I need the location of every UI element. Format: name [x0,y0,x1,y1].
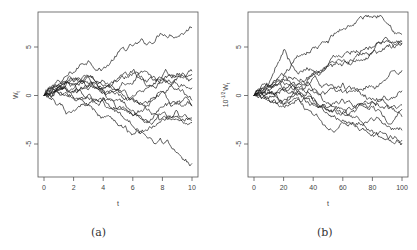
panel-a-paths [44,27,192,166]
x-tick-label: 100 [396,184,408,191]
series-line-path-10 [254,84,402,145]
x-tick-label: 6 [131,184,135,191]
x-tick-label: 20 [280,184,288,191]
figure: 0246810 -505 t Wt 020406080100 -505 t 10… [0,0,417,250]
x-tick-label: 80 [369,184,377,191]
x-tick-label: 40 [309,184,317,191]
panel-a-x-axis: 0246810 [42,177,196,191]
series-line-path-9 [44,95,192,166]
x-tick-label: 60 [339,184,347,191]
series-line-path-7 [254,86,402,109]
panel-b-paths [254,15,402,145]
x-tick-label: 8 [160,184,164,191]
x-tick-label: 2 [72,184,76,191]
y-tick-label: 5 [25,45,32,49]
x-tick-label: 0 [252,184,256,191]
x-tick-label: 0 [42,184,46,191]
y-tick-label: 0 [235,93,242,97]
panel-a-y-axis: -505 [25,45,38,147]
panel-b-y-axis: -505 [235,45,248,147]
caption-a: (a) [91,226,106,239]
x-tick-label: 10 [188,184,196,191]
panel-b-y-label: 10-1/2Wt [221,82,231,107]
panel-a-x-label: t [117,200,119,207]
series-line-path-3 [254,40,402,95]
panel-b-x-axis: 020406080100 [252,177,408,191]
y-tick-label: -5 [235,141,242,147]
panel-a-y-label: Wt [12,90,21,99]
panel-b-plot: 020406080100 -505 t 10-1/2Wt [221,12,408,207]
series-line-path-10 [44,88,192,135]
panel-b-x-label: t [327,200,329,207]
y-tick-label: 5 [235,45,242,49]
panel-a-plot: 0246810 -505 t Wt [12,12,198,207]
y-tick-label: 0 [25,93,32,97]
series-line-path-2 [254,41,402,96]
caption-b: (b) [317,226,333,239]
x-tick-label: 4 [101,184,105,191]
y-tick-label: -5 [25,141,32,147]
